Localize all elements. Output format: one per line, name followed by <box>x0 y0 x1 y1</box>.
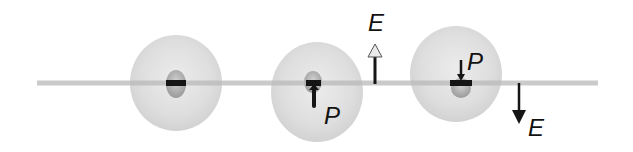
field-arrow-up-icon <box>368 44 382 84</box>
polarization-diagram: E P P E <box>0 0 633 152</box>
sphere-polarized-down <box>271 42 363 142</box>
label-p-sphere2: P <box>324 104 340 128</box>
sphere-polarized-up <box>410 26 502 122</box>
label-e-up: E <box>368 11 384 35</box>
field-arrow-down-icon <box>512 83 526 124</box>
label-p-sphere3: P <box>467 50 483 74</box>
charge-bar-neutral <box>166 80 186 86</box>
label-e-down: E <box>528 116 544 140</box>
